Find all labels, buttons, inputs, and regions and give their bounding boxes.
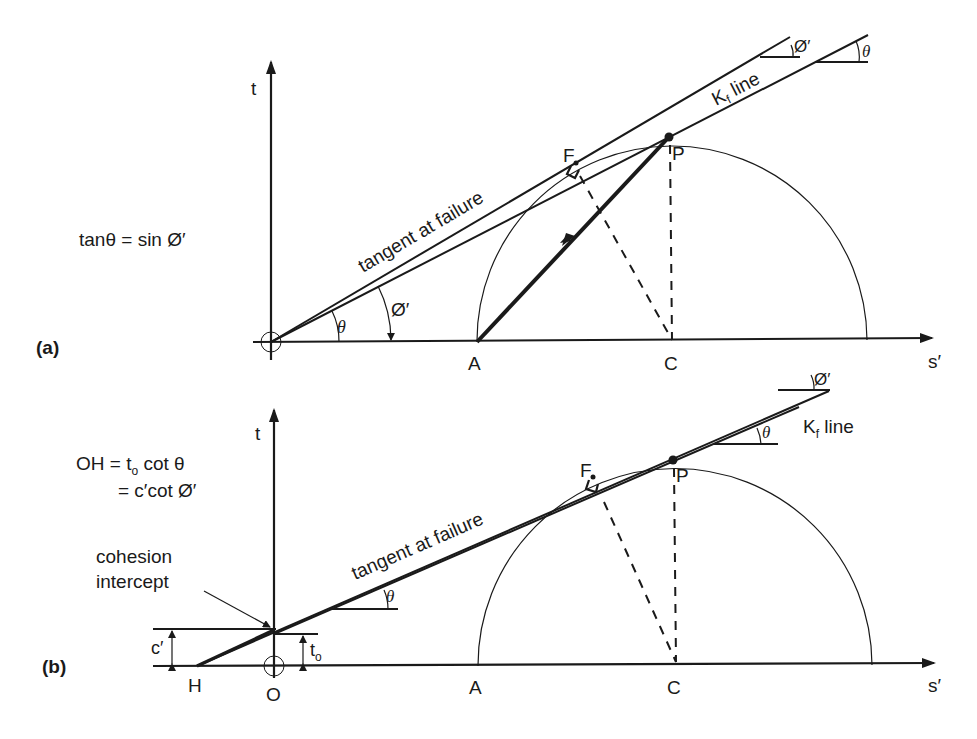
cohesion-label-line2: intercept	[96, 571, 170, 592]
point-p-label-a: P	[672, 143, 685, 164]
panel-b: (b) OH = to cot θ = c′cot Ø′ t s′ A C P …	[42, 370, 942, 705]
phi-label-a: Ø′	[391, 299, 410, 320]
phi-mark-label-a: Ø′	[794, 37, 810, 56]
point-f-label-b: F	[580, 460, 592, 481]
point-c-label-a: C	[664, 353, 678, 374]
theta-mark-b	[757, 428, 761, 444]
cohesion-label-line1: cohesion	[96, 546, 172, 567]
s-axis-a	[253, 338, 932, 342]
point-f-label-a: F	[563, 145, 575, 166]
theta-label-a: θ	[337, 317, 346, 337]
point-h-label-b: H	[188, 675, 202, 696]
panel-tag-a: (a)	[36, 337, 59, 358]
point-p-label-b: P	[676, 465, 689, 486]
point-p-a	[665, 133, 674, 142]
stress-path-diagram: (a) tanθ = sin Ø′ t s′ A C P F tangent a…	[0, 0, 977, 739]
s-axis-b	[153, 663, 934, 666]
tangent-label-a: tangent at failure	[354, 187, 487, 277]
kf-label-a: Kf line	[708, 68, 764, 113]
theta-mark-a	[856, 41, 859, 62]
point-o-label-b: O	[266, 684, 281, 705]
radius-cf-b	[604, 502, 676, 662]
failure-tangent-b	[197, 391, 829, 666]
equation-a: tanθ = sin Ø′	[79, 229, 186, 250]
kf-label-b: Kf line	[803, 416, 854, 441]
point-a-label-b: A	[469, 677, 482, 698]
axis-t-label-b: t	[255, 423, 261, 444]
point-c-label-b: C	[667, 677, 681, 698]
mohr-circle-a	[477, 146, 867, 342]
phi-arc-a	[378, 286, 391, 340]
point-a-label-a: A	[468, 353, 481, 374]
axis-s-label-b: s′	[928, 675, 942, 696]
equation-b-line2: = c′cot Ø′	[118, 480, 197, 501]
cohesion-pointer	[204, 591, 270, 627]
equation-b-line1: OH = to cot θ	[76, 453, 185, 478]
c-prime-label: c′	[151, 638, 164, 658]
radius-cp-a	[670, 145, 672, 340]
panel-tag-b: (b)	[42, 656, 66, 677]
axis-t-label-a: t	[251, 78, 257, 99]
right-angle-f-b	[586, 480, 598, 492]
failure-tangent-a	[271, 37, 790, 342]
point-p-b	[669, 456, 678, 465]
axis-s-label-a: s′	[928, 351, 942, 372]
t-o-label: to	[310, 640, 322, 664]
kf-line-a	[271, 35, 868, 342]
theta-mid-label-b: θ	[386, 587, 394, 606]
mohr-circle-b	[478, 468, 872, 666]
panel-a: (a) tanθ = sin Ø′ t s′ A C P F tangent a…	[36, 35, 942, 374]
radius-cf-a	[580, 176, 672, 340]
theta-mark-label-b: θ	[762, 423, 770, 442]
kf-line-b	[274, 407, 799, 634]
phi-mark-label-b: Ø′	[814, 370, 830, 389]
radius-cp-b	[674, 468, 676, 662]
svg-text:Kf line: Kf line	[708, 68, 764, 113]
theta-mark-label-a: θ	[862, 42, 870, 61]
phi-mark-a	[791, 45, 793, 57]
